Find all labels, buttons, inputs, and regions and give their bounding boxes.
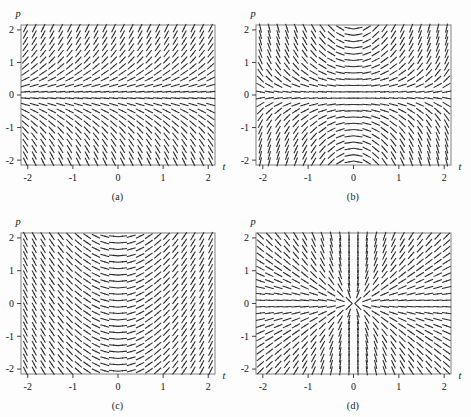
- svg-text:t: t: [459, 370, 463, 381]
- direction-field-d: -2-1012210-1-2pt: [235, 208, 471, 417]
- panel-caption-c: (c): [0, 400, 235, 411]
- svg-text:-1: -1: [241, 122, 249, 133]
- svg-text:t: t: [223, 161, 227, 172]
- svg-text:1: 1: [244, 265, 249, 276]
- direction-field-a: -2-1012210-1-2pt: [0, 0, 235, 208]
- panel-caption-b: (b): [235, 191, 471, 202]
- svg-text:-2: -2: [259, 172, 267, 183]
- svg-text:-1: -1: [304, 172, 312, 183]
- svg-text:1: 1: [244, 57, 249, 68]
- panel-b: -2-1012210-1-2pt (b): [235, 0, 471, 208]
- svg-text:-1: -1: [304, 381, 312, 392]
- svg-text:2: 2: [442, 381, 447, 392]
- svg-text:1: 1: [9, 265, 14, 276]
- svg-text:p: p: [14, 8, 20, 19]
- svg-text:t: t: [459, 161, 463, 172]
- svg-text:1: 1: [161, 172, 166, 183]
- panel-caption-d: (d): [235, 400, 471, 411]
- svg-text:0: 0: [116, 172, 121, 183]
- panel-c: -2-1012210-1-2pt (c): [0, 208, 235, 417]
- svg-text:-2: -2: [24, 172, 32, 183]
- svg-text:0: 0: [351, 381, 356, 392]
- svg-text:1: 1: [9, 57, 14, 68]
- svg-text:0: 0: [9, 298, 14, 309]
- svg-text:2: 2: [244, 24, 249, 35]
- svg-text:-1: -1: [6, 122, 14, 133]
- panel-caption-a: (a): [0, 191, 235, 202]
- svg-text:-2: -2: [241, 155, 249, 166]
- svg-text:2: 2: [206, 172, 211, 183]
- svg-text:-2: -2: [259, 381, 267, 392]
- svg-text:-1: -1: [69, 172, 77, 183]
- panel-d: -2-1012210-1-2pt (d): [235, 208, 471, 417]
- svg-text:2: 2: [244, 232, 249, 243]
- svg-text:p: p: [249, 216, 255, 227]
- svg-text:2: 2: [9, 232, 14, 243]
- svg-text:-2: -2: [6, 363, 14, 374]
- svg-text:-2: -2: [24, 381, 32, 392]
- svg-text:0: 0: [351, 172, 356, 183]
- svg-text:t: t: [223, 370, 227, 381]
- svg-text:2: 2: [9, 24, 14, 35]
- svg-text:1: 1: [396, 172, 401, 183]
- svg-text:0: 0: [244, 89, 249, 100]
- svg-text:-2: -2: [241, 363, 249, 374]
- svg-text:1: 1: [396, 381, 401, 392]
- svg-text:p: p: [14, 216, 20, 227]
- svg-text:-1: -1: [241, 331, 249, 342]
- svg-text:0: 0: [116, 381, 121, 392]
- svg-text:0: 0: [9, 89, 14, 100]
- svg-text:-1: -1: [69, 381, 77, 392]
- svg-text:0: 0: [244, 298, 249, 309]
- svg-text:-1: -1: [6, 331, 14, 342]
- figure-panel-grid: -2-1012210-1-2pt (a) -2-1012210-1-2pt (b…: [0, 0, 471, 417]
- svg-text:-2: -2: [6, 155, 14, 166]
- svg-text:2: 2: [442, 172, 447, 183]
- svg-text:2: 2: [206, 381, 211, 392]
- svg-text:p: p: [249, 8, 255, 19]
- panel-a: -2-1012210-1-2pt (a): [0, 0, 235, 208]
- svg-text:1: 1: [161, 381, 166, 392]
- direction-field-c: -2-1012210-1-2pt: [0, 208, 235, 417]
- direction-field-b: -2-1012210-1-2pt: [235, 0, 471, 208]
